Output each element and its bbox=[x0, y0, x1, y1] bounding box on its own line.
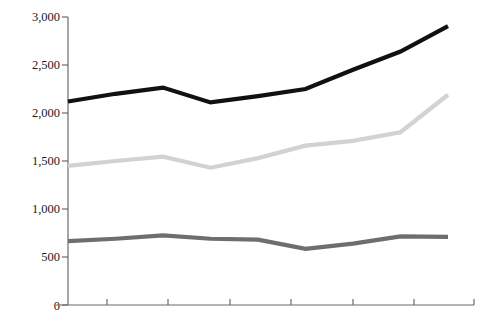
y-axis-label-0: 0 bbox=[54, 299, 60, 313]
y-axis-label-1000: 1,000 bbox=[32, 202, 60, 216]
y-axis-label-2000: 2,000 bbox=[32, 106, 60, 120]
data-series-layer bbox=[68, 26, 448, 249]
line-chart: 3,000 2,500 2,000 1,500 1,000 500 0 bbox=[0, 0, 480, 326]
y-axis-tick-labels: 3,000 2,500 2,000 1,500 1,000 500 0 bbox=[32, 10, 60, 313]
y-axis-ticks bbox=[62, 17, 68, 305]
series-line-series-3-dark-gray bbox=[68, 235, 448, 248]
y-axis-label-1500: 1,500 bbox=[32, 154, 60, 168]
x-axis-ticks bbox=[107, 299, 474, 305]
series-line-series-1-black bbox=[68, 26, 448, 102]
y-axis-label-500: 500 bbox=[41, 250, 60, 264]
chart-canvas: 3,000 2,500 2,000 1,500 1,000 500 0 bbox=[0, 0, 480, 326]
series-line-series-2-light-gray bbox=[68, 95, 448, 168]
y-axis-label-3000: 3,000 bbox=[32, 10, 60, 24]
y-axis-label-2500: 2,500 bbox=[32, 58, 60, 72]
